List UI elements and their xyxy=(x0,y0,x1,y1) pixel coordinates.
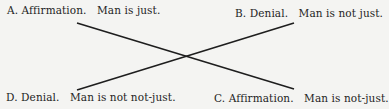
corner-b-letter: B. xyxy=(235,7,246,19)
corner-a-kind: Affirmation. xyxy=(22,4,87,16)
corner-c-kind: Affirmation. xyxy=(229,92,294,104)
corner-a-label: A. Affirmation. Man is just. xyxy=(7,4,160,16)
corner-b-label: B. Denial. Man is not just. xyxy=(235,7,383,19)
corner-c-proposition: Man is not-just. xyxy=(304,92,389,104)
corner-d-letter: D. xyxy=(6,91,18,103)
corner-a-proposition: Man is just. xyxy=(97,4,160,16)
corner-c-letter: C. xyxy=(214,92,225,104)
corner-a-letter: A. xyxy=(7,4,18,16)
corner-c-label: C. Affirmation. Man is not-just. xyxy=(214,92,389,104)
corner-b-kind: Denial. xyxy=(250,7,288,19)
corner-d-proposition: Man is not not-just. xyxy=(70,91,176,103)
corner-d-kind: Denial. xyxy=(21,91,59,103)
corner-d-label: D. Denial. Man is not not-just. xyxy=(6,91,176,103)
corner-b-proposition: Man is not just. xyxy=(299,7,383,19)
